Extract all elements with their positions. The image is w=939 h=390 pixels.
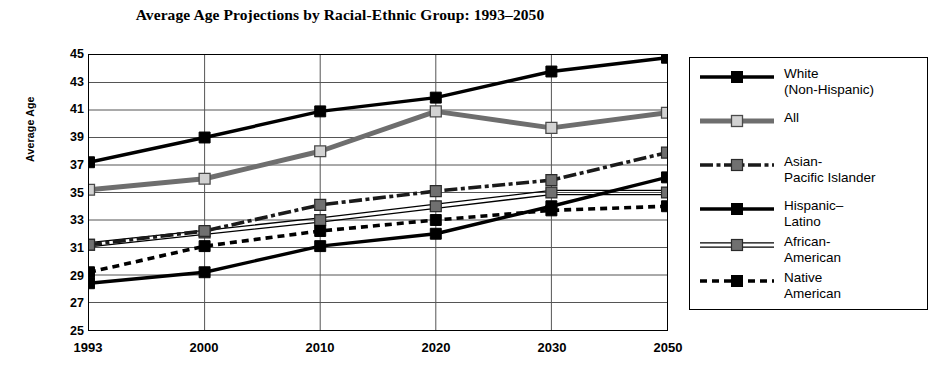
data-point: [315, 241, 326, 252]
data-point: [546, 122, 557, 133]
data-point: [89, 267, 94, 278]
legend-item-african_american[interactable]: African- American: [698, 234, 841, 265]
data-point: [662, 147, 667, 158]
data-point: [89, 184, 94, 195]
y-tick-label: 41: [44, 102, 84, 116]
data-point: [315, 226, 326, 237]
legend: White (Non-Hispanic)AllAsian- Pacific Is…: [689, 57, 928, 310]
legend-label-african_american: African- American: [776, 234, 841, 265]
chart-container: Average Age Projections by Racial-Ethnic…: [0, 0, 939, 390]
data-point: [315, 199, 326, 210]
data-point: [662, 55, 667, 63]
data-point: [546, 187, 557, 198]
legend-label-hispanic_latino: Hispanic– Latino: [776, 198, 843, 229]
data-point: [430, 215, 441, 226]
y-tick-label: 33: [44, 213, 84, 227]
y-tick-label: 37: [44, 158, 84, 172]
data-point: [546, 175, 557, 186]
data-point: [89, 157, 94, 168]
legend-label-asian_pacific_islander: Asian- Pacific Islander: [776, 154, 876, 185]
legend-label-native_american: Native American: [776, 270, 841, 301]
y-tick-label: 43: [44, 75, 84, 89]
series-hispanic_latino: [89, 172, 667, 289]
y-tick-label: 25: [44, 324, 84, 338]
data-point: [89, 239, 94, 250]
plot-area: [88, 54, 668, 331]
x-tick-label: 1993: [74, 340, 103, 355]
data-point: [430, 186, 441, 197]
data-point: [199, 226, 210, 237]
y-tick-label: 27: [44, 296, 84, 310]
x-tick-label: 2050: [654, 340, 683, 355]
y-tick-label: 29: [44, 269, 84, 283]
data-point: [315, 106, 326, 117]
data-point: [199, 132, 210, 143]
y-tick-label: 31: [44, 241, 84, 255]
data-point: [430, 201, 441, 212]
series-white_non_hispanic: [89, 55, 667, 168]
legend-label-white_non_hispanic: White (Non-Hispanic): [776, 66, 874, 97]
data-point: [662, 201, 667, 212]
legend-swatch-hispanic_latino: [698, 199, 776, 219]
data-point: [662, 107, 667, 118]
legend-swatch-native_american: [698, 271, 776, 291]
series-all: [89, 106, 667, 195]
legend-swatch-all: [698, 111, 776, 131]
legend-item-white_non_hispanic[interactable]: White (Non-Hispanic): [698, 66, 874, 97]
legend-swatch-white_non_hispanic: [698, 67, 776, 87]
data-point: [430, 228, 441, 239]
legend-swatch-african_american: [698, 235, 776, 255]
data-point: [430, 92, 441, 103]
y-axis-tick-labels: 4543413937353331292725: [40, 54, 84, 331]
gridlines: [89, 55, 667, 330]
data-point: [315, 215, 326, 226]
data-point: [199, 267, 210, 278]
data-point: [546, 66, 557, 77]
x-tick-label: 2030: [538, 340, 567, 355]
y-axis-title: Average Age: [24, 42, 36, 162]
x-tick-label: 2010: [306, 340, 335, 355]
data-point: [199, 241, 210, 252]
data-point: [89, 278, 94, 289]
legend-item-asian_pacific_islander[interactable]: Asian- Pacific Islander: [698, 154, 876, 185]
data-point: [546, 201, 557, 212]
data-point: [662, 187, 667, 198]
y-tick-label: 45: [44, 47, 84, 61]
legend-label-all: All: [776, 110, 799, 126]
y-tick-label: 39: [44, 130, 84, 144]
x-axis-tick-labels: 199320002010202020302050: [88, 340, 668, 362]
chart-title: Average Age Projections by Racial-Ethnic…: [0, 6, 680, 24]
legend-item-native_american[interactable]: Native American: [698, 270, 841, 301]
data-point: [662, 172, 667, 183]
data-point: [199, 173, 210, 184]
data-point: [430, 106, 441, 117]
legend-swatch-asian_pacific_islander: [698, 155, 776, 175]
data-point: [315, 146, 326, 157]
legend-item-hispanic_latino[interactable]: Hispanic– Latino: [698, 198, 843, 229]
series-layer: [89, 55, 667, 330]
legend-item-all[interactable]: All: [698, 110, 799, 131]
x-tick-label: 2000: [190, 340, 219, 355]
y-tick-label: 35: [44, 186, 84, 200]
x-tick-label: 2020: [422, 340, 451, 355]
